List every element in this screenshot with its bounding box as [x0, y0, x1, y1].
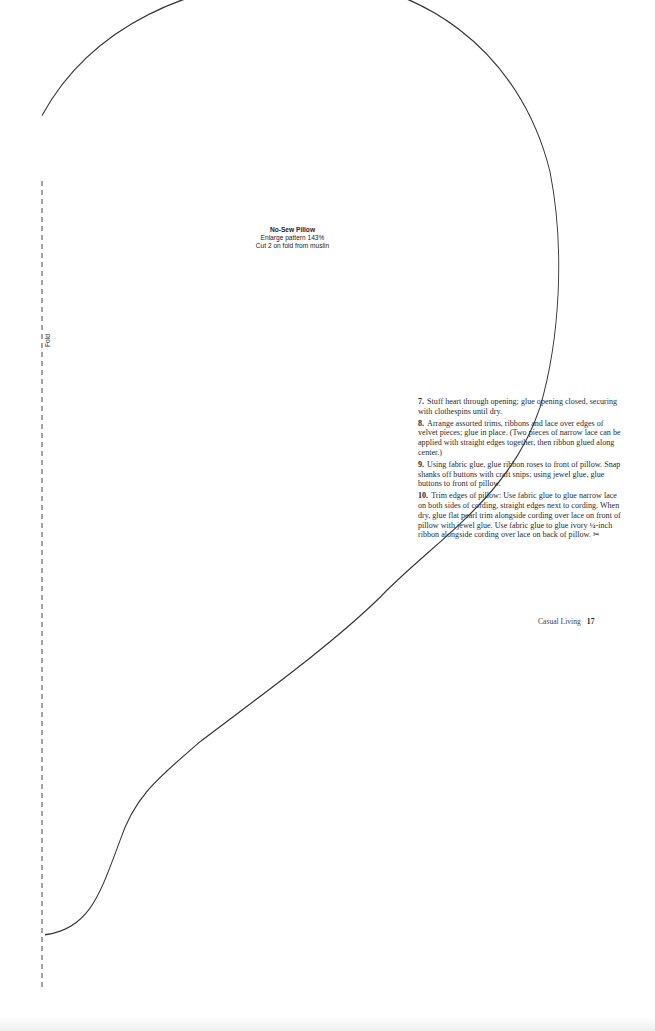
step-text: Using fabric glue, glue ribbon roses to …	[418, 460, 620, 489]
pattern-label: No-Sew Pillow Enlarge pattern 143% Cut 2…	[210, 226, 375, 251]
step-text: Arrange assorted trims, ribbons and lace…	[418, 419, 621, 457]
instruction-step-10: 10.Trim edges of pillow: Use fabric glue…	[418, 491, 623, 540]
cut-note: Cut 2 on fold from muslin	[210, 242, 375, 250]
instruction-step-7: 7.Stuff heart through opening; glue open…	[418, 397, 623, 417]
page-number: 17	[587, 617, 595, 626]
step-number: 7.	[418, 397, 424, 406]
fold-label: Fold	[44, 327, 51, 347]
scan-edge	[0, 1016, 655, 1031]
scissors-icon: ✂	[593, 530, 600, 539]
step-text: Stuff heart through opening; glue openin…	[418, 397, 617, 416]
instruction-step-8: 8.Arrange assorted trims, ribbons and la…	[418, 419, 623, 458]
magazine-page: No-Sew Pillow Enlarge pattern 143% Cut 2…	[0, 0, 655, 1031]
step-number: 9.	[418, 460, 424, 469]
section-name: Casual Living	[538, 617, 581, 626]
instructions-column: 7.Stuff heart through opening; glue open…	[418, 397, 623, 542]
instruction-step-9: 9.Using fabric glue, glue ribbon roses t…	[418, 460, 623, 489]
step-number: 10.	[418, 491, 428, 500]
page-footer: Casual Living17	[538, 617, 594, 626]
enlarge-note: Enlarge pattern 143%	[210, 234, 375, 242]
step-text: Trim edges of pillow: Use fabric glue to…	[418, 491, 621, 539]
step-number: 8.	[418, 419, 424, 428]
pattern-title: No-Sew Pillow	[210, 226, 375, 234]
